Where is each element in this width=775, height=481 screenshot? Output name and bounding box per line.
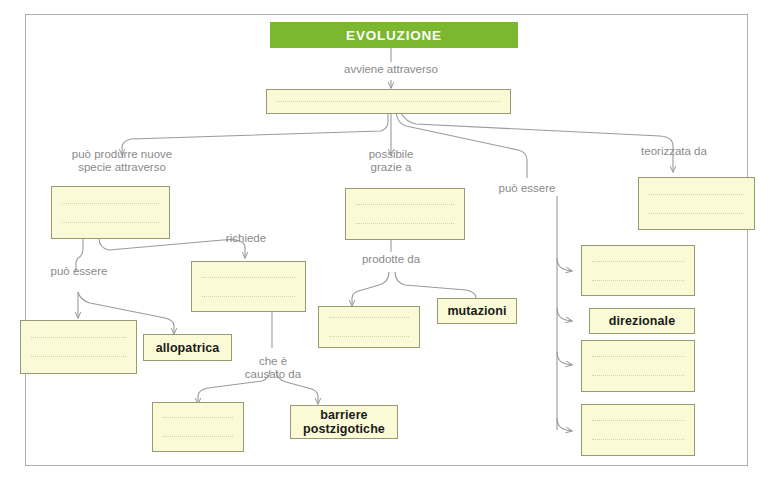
node-richiede-target[interactable] [191, 261, 306, 312]
blank-writing-lines [267, 90, 510, 113]
node-allopatrica-label: allopatrica [156, 341, 220, 355]
blank-writing-lines [21, 321, 136, 373]
node-speciation-type-blank[interactable] [20, 320, 137, 374]
node-barriere-postzigotiche[interactable]: barriere postzigotiche [290, 405, 398, 439]
node-selezione-3[interactable] [581, 340, 695, 392]
blank-writing-lines [192, 262, 305, 311]
blank-writing-lines [346, 189, 464, 239]
blank-writing-lines [153, 403, 243, 451]
node-causato-da-blank[interactable] [152, 402, 244, 452]
connector-label-puo-produrre-nuove-specie: può produrre nuove specie attraverso [42, 148, 202, 173]
node-speciation[interactable] [51, 186, 170, 239]
connector-label-teorizzata-da: teorizzata da [621, 145, 727, 158]
node-direzionale-label: direzionale [609, 314, 675, 328]
connector-label-puo-essere-left: può essere [35, 265, 123, 278]
blank-writing-lines [52, 187, 169, 238]
node-teorizzata-da-blank[interactable] [638, 177, 755, 230]
connector-label-richiede: richiede [205, 232, 287, 245]
connector-label-possibile-grazie-a: possibile grazie a [341, 148, 441, 173]
connector-label-puo-essere-right: può essere [481, 182, 573, 195]
node-mutazioni-label: mutazioni [447, 304, 506, 318]
node-variability[interactable] [345, 188, 465, 240]
diagram-canvas: EVOLUZIONE avviene attraverso può produr… [0, 0, 775, 481]
node-direzionale[interactable]: direzionale [589, 308, 695, 334]
node-allopatrica[interactable]: allopatrica [143, 334, 232, 361]
blank-writing-lines [319, 307, 419, 347]
node-barriere-postzigotiche-label: barriere postzigotiche [303, 408, 385, 436]
connector-label-che-e-causato-da: che è causato da [230, 355, 316, 380]
node-selezione-1[interactable] [581, 245, 695, 296]
blank-writing-lines [639, 178, 754, 229]
node-selezione-4[interactable] [581, 404, 695, 456]
diagram-frame [25, 14, 748, 466]
connector-label-avviene-attraverso: avviene attraverso [329, 63, 453, 76]
node-mutazioni[interactable]: mutazioni [437, 298, 517, 324]
blank-writing-lines [582, 246, 694, 295]
diagram-title: EVOLUZIONE [346, 28, 442, 43]
node-main-mechanism[interactable] [266, 89, 511, 114]
node-prodotte-da-blank[interactable] [318, 306, 420, 348]
diagram-title-banner: EVOLUZIONE [270, 22, 518, 48]
blank-writing-lines [582, 341, 694, 391]
blank-writing-lines [582, 405, 694, 455]
connector-label-prodotte-da: prodotte da [345, 253, 437, 266]
